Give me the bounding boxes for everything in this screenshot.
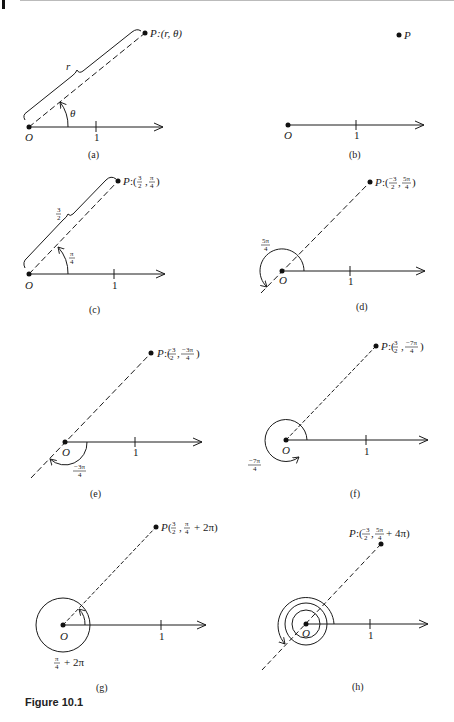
angle-label: −7π 4 — [248, 457, 261, 473]
svg-text:,: , — [179, 521, 182, 533]
origin-label: O — [25, 279, 33, 291]
ray-OP — [286, 346, 376, 440]
svg-text:2: 2 — [172, 528, 176, 536]
svg-text:): ) — [156, 175, 160, 188]
angle-label: θ — [70, 107, 76, 119]
point-P — [149, 351, 154, 356]
figure-caption: Figure 10.1 — [25, 696, 83, 708]
svg-text:4: 4 — [70, 258, 74, 266]
angle-label: π 4 + 2π — [54, 655, 84, 671]
point-P — [374, 344, 379, 349]
point-coords: :(r, θ) — [157, 27, 182, 40]
point-coords: P :( −3 2 , −3π 4 ) — [156, 346, 200, 362]
svg-text:2: 2 — [138, 182, 142, 190]
svg-text:,: , — [398, 176, 401, 188]
tick-label: 1 — [133, 446, 139, 458]
tick-label: 1 — [364, 445, 370, 457]
svg-text:−3: −3 — [168, 346, 176, 354]
ray-OP — [29, 33, 145, 127]
panel-e: O 1 P :( −3 2 , −3π 4 ) −3π 4 (e) — [31, 346, 202, 500]
svg-text:3: 3 — [394, 339, 398, 347]
radius-label: r — [66, 60, 71, 72]
svg-text:4: 4 — [78, 471, 82, 479]
svg-text:+ 2π): + 2π) — [194, 521, 218, 534]
svg-text:P: P — [160, 521, 168, 533]
panel-caption: (d) — [356, 301, 368, 313]
svg-text:2: 2 — [394, 347, 398, 355]
origin-dot — [304, 622, 309, 627]
tick-label: 1 — [368, 629, 374, 641]
panel-caption: (e) — [90, 488, 101, 500]
svg-text:4: 4 — [264, 245, 268, 253]
svg-text:4: 4 — [55, 663, 59, 671]
svg-text:+ 2π: + 2π — [64, 656, 84, 668]
angle-label: −3π 4 — [73, 463, 86, 479]
ray-OP — [63, 527, 156, 625]
origin-label: O — [60, 630, 68, 642]
angle-arc — [60, 102, 68, 127]
radius-brace — [24, 30, 141, 120]
point-coords: P ( 3 2 , π 4 + 2π) — [160, 520, 218, 536]
tick-label: 1 — [159, 630, 165, 642]
point-P — [154, 525, 159, 530]
panel-caption: (b) — [349, 149, 361, 161]
origin-label: O — [62, 446, 70, 458]
svg-text:5π: 5π — [376, 526, 384, 534]
svg-text::(: :( — [382, 176, 389, 189]
panel-b: O 1 P (b) — [284, 29, 424, 161]
svg-text:2: 2 — [364, 534, 368, 542]
svg-text:5π: 5π — [403, 175, 411, 183]
svg-text:P: P — [374, 176, 382, 188]
svg-text:−3π: −3π — [74, 463, 85, 471]
origin-dot — [61, 623, 66, 628]
ray-OP — [262, 544, 381, 670]
origin-dot — [63, 440, 68, 445]
panel-caption: (a) — [88, 149, 99, 161]
svg-text:4: 4 — [150, 182, 154, 190]
point-label: P — [403, 29, 411, 41]
origin-label: O — [282, 444, 290, 456]
point-label: P — [149, 27, 157, 39]
svg-text:2: 2 — [57, 214, 61, 222]
svg-text:P: P — [156, 347, 164, 359]
polar-coordinates-figure: O 1 P :(r, θ) r θ (a) O 1 P (b) O 1 P :(… — [0, 0, 454, 722]
svg-text:3: 3 — [57, 206, 61, 214]
svg-text:,: , — [145, 175, 148, 187]
svg-text:,: , — [371, 527, 374, 539]
svg-text:4: 4 — [405, 183, 409, 191]
svg-text:+ 4π): + 4π) — [386, 527, 410, 540]
svg-text:4: 4 — [185, 528, 189, 536]
tick-label: 1 — [348, 275, 354, 287]
ray-OP — [29, 181, 118, 274]
svg-text:P: P — [380, 340, 388, 352]
origin-label: O — [279, 274, 287, 286]
origin-dot — [27, 125, 32, 130]
svg-text:π: π — [150, 174, 154, 182]
origin-label: O — [302, 627, 310, 639]
panel-caption: (f) — [350, 488, 360, 500]
point-coords: P :( 3 2 , −7π 4 ) — [380, 339, 424, 355]
svg-text:2: 2 — [170, 354, 174, 362]
svg-text:): ) — [196, 347, 200, 360]
panel-caption: (g) — [96, 682, 108, 694]
tick-label: 1 — [354, 129, 360, 141]
angle-arc — [58, 247, 68, 274]
svg-text:4: 4 — [253, 465, 257, 473]
ray-OP — [31, 353, 151, 478]
point-P — [368, 180, 373, 185]
origin-dot — [27, 272, 32, 277]
svg-text:P: P — [348, 527, 356, 539]
svg-text:π: π — [185, 520, 189, 528]
panel-h: O 1 P :( −3 2 , 5π 4 + 4π) (h) — [262, 526, 428, 693]
svg-text:4: 4 — [378, 534, 382, 542]
panel-a: O 1 P :(r, θ) r θ (a) — [24, 27, 182, 161]
svg-text:): ) — [420, 340, 424, 353]
panel-caption: (c) — [89, 304, 100, 316]
radius-label: 3 2 — [56, 206, 61, 222]
origin-label: O — [25, 131, 33, 143]
svg-text:π: π — [55, 655, 59, 663]
svg-text:−3π: −3π — [182, 346, 193, 354]
svg-text:−7π: −7π — [249, 457, 260, 465]
svg-text:2: 2 — [391, 183, 395, 191]
origin-dot — [286, 123, 291, 128]
